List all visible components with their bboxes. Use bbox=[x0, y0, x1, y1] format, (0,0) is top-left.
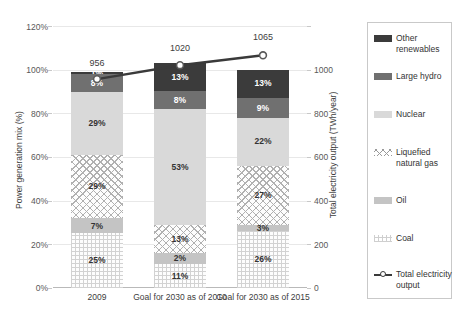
legend-swatch-large-hydro-icon bbox=[374, 73, 392, 80]
total-output-marker-2015goal bbox=[260, 52, 267, 59]
bar-segment-lng: 13% bbox=[154, 225, 206, 253]
chart-legend: Other renewables Large hydro Nuclear Liq… bbox=[367, 22, 452, 299]
legend-label: Total electricity output bbox=[396, 269, 452, 291]
legend-swatch-coal-icon bbox=[374, 235, 392, 242]
legend-item-total-output[interactable]: Total electricity output bbox=[374, 269, 452, 291]
plot-area: 1% 8% 29% 29% 7% 25% 13% 8% 53% 13% 2% 1… bbox=[53, 26, 307, 288]
legend-swatch-total-output-line-icon bbox=[374, 270, 392, 279]
y2-tickmark-200 bbox=[307, 244, 311, 245]
y-tickmark-0 bbox=[48, 288, 52, 289]
x-axis-label-2009: 2009 bbox=[49, 292, 145, 303]
segment-value: 26% bbox=[254, 255, 271, 264]
segment-value: 2% bbox=[174, 254, 186, 263]
y-tickmark-40 bbox=[48, 201, 52, 202]
legend-item-coal[interactable]: Coal bbox=[374, 233, 452, 244]
y-tick-0: 0% bbox=[14, 283, 48, 293]
y-tick-20: 20% bbox=[14, 240, 48, 250]
segment-value: 22% bbox=[254, 137, 271, 146]
segment-value: 11% bbox=[172, 272, 189, 281]
segment-value: 53% bbox=[171, 163, 188, 172]
bar-segment-coal: 26% bbox=[237, 231, 289, 288]
legend-swatch-oil-icon bbox=[374, 197, 392, 204]
segment-value: 8% bbox=[174, 96, 186, 105]
bar-segment-lng: 29% bbox=[71, 155, 123, 218]
y-tick-60: 60% bbox=[14, 152, 48, 162]
y-tickmark-100 bbox=[48, 70, 52, 71]
bar-segment-lng: 27% bbox=[237, 166, 289, 225]
bar-segment-oil: 7% bbox=[71, 218, 123, 233]
y-tick-120: 120% bbox=[14, 22, 48, 32]
bar-goal-2030-as-of-2010: 13% 8% 53% 13% 2% 11% bbox=[154, 63, 206, 288]
x-axis-label-goal-2030-2015: Goal for 2030 as of 2015 bbox=[215, 292, 311, 303]
segment-value: 9% bbox=[257, 104, 269, 113]
segment-value: 27% bbox=[254, 191, 271, 200]
y2-tick-400: 400 bbox=[314, 196, 348, 206]
y2-tick-800: 800 bbox=[314, 109, 348, 119]
legend-label: Coal bbox=[396, 233, 413, 244]
legend-label: Liquefied natural gas bbox=[396, 147, 452, 169]
bar-goal-2030-as-of-2015: 13% 9% 22% 27% 3% 26% bbox=[237, 70, 289, 288]
y-tickmark-20 bbox=[48, 244, 52, 245]
y-tickmark-80 bbox=[48, 113, 52, 114]
y2-tick-0: 0 bbox=[314, 283, 348, 293]
segment-value: 13% bbox=[171, 235, 188, 244]
segment-value: 29% bbox=[88, 182, 105, 191]
bar-segment-large-hydro: 8% bbox=[71, 74, 123, 92]
segment-value: 13% bbox=[171, 73, 188, 82]
y-tick-80: 80% bbox=[14, 109, 48, 119]
y2-tickmark-400 bbox=[307, 201, 311, 202]
bar-segment-other-renewables: 13% bbox=[237, 70, 289, 98]
bar-segment-nuclear: 53% bbox=[154, 109, 206, 225]
legend-label: Nuclear bbox=[396, 109, 425, 120]
y2-tick-1000: 1000 bbox=[314, 65, 348, 75]
total-output-label-2010goal: 1020 bbox=[170, 43, 190, 53]
bar-2009: 1% 8% 29% 29% 7% 25% bbox=[71, 72, 123, 288]
y2-tickmark-1000 bbox=[307, 70, 311, 71]
legend-item-lng[interactable]: Liquefied natural gas bbox=[374, 147, 452, 169]
y2-tick-600: 600 bbox=[314, 152, 348, 162]
bar-segment-large-hydro: 9% bbox=[237, 98, 289, 118]
segment-value: 8% bbox=[91, 79, 103, 88]
x-axis-label-goal-2030-2010: Goal for 2030 as of 2010 bbox=[132, 292, 228, 303]
y-tickmark-120 bbox=[48, 26, 52, 27]
bar-segment-nuclear: 22% bbox=[237, 118, 289, 166]
segment-value: 29% bbox=[88, 119, 105, 128]
y-tickmark-60 bbox=[48, 157, 52, 158]
gridline-120 bbox=[53, 26, 307, 27]
y2-tickmark-800 bbox=[307, 113, 311, 114]
bar-segment-oil: 2% bbox=[154, 253, 206, 264]
y2-tick-200: 200 bbox=[314, 240, 348, 250]
bar-segment-coal: 25% bbox=[71, 233, 123, 288]
legend-label: Large hydro bbox=[396, 71, 441, 82]
segment-value: 7% bbox=[91, 222, 103, 231]
y-tick-100: 100% bbox=[14, 65, 48, 75]
legend-swatch-lng-icon bbox=[374, 149, 392, 156]
bar-segment-nuclear: 29% bbox=[71, 92, 123, 155]
legend-swatch-other-renewables-icon bbox=[374, 35, 392, 42]
legend-item-nuclear[interactable]: Nuclear bbox=[374, 109, 452, 120]
legend-item-other-renewables[interactable]: Other renewables bbox=[374, 33, 452, 55]
total-output-label-2015goal: 1065 bbox=[253, 32, 273, 42]
y2-tickmark-1200 bbox=[307, 26, 311, 27]
y2-tickmark-0 bbox=[307, 288, 311, 289]
stacked-bar-line-chart: Power generation mix (%) Total electrici… bbox=[0, 0, 456, 332]
legend-item-large-hydro[interactable]: Large hydro bbox=[374, 71, 452, 82]
legend-swatch-nuclear-icon bbox=[374, 111, 392, 118]
legend-item-oil[interactable]: Oil bbox=[374, 195, 452, 206]
y-tick-40: 40% bbox=[14, 196, 48, 206]
legend-label: Oil bbox=[396, 195, 406, 206]
bar-segment-coal: 11% bbox=[154, 264, 206, 288]
total-output-label-2009: 956 bbox=[89, 58, 104, 68]
y2-tickmark-600 bbox=[307, 157, 311, 158]
bar-segment-oil: 3% bbox=[237, 225, 289, 232]
segment-value: 3% bbox=[257, 225, 269, 232]
bar-segment-other-renewables: 13% bbox=[154, 63, 206, 91]
segment-value: 13% bbox=[254, 79, 271, 88]
segment-value: 25% bbox=[88, 256, 105, 265]
legend-label: Other renewables bbox=[396, 33, 452, 55]
bar-segment-large-hydro: 8% bbox=[154, 91, 206, 109]
